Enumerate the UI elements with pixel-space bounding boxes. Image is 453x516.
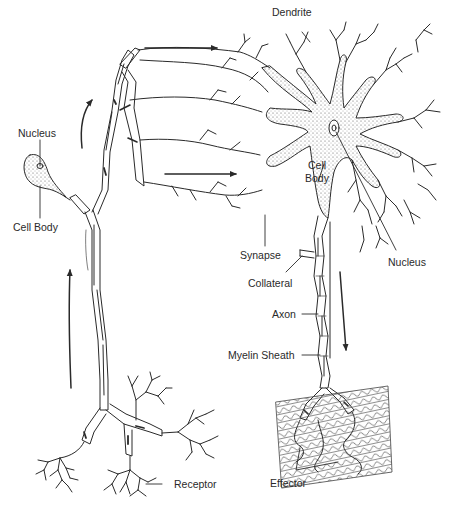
label-dendrite: Dendrite [272,7,312,18]
motor-cell-body [262,55,403,218]
label-cell-body-motor-line2: Body [302,173,332,184]
label-collateral: Collateral [248,278,292,289]
label-receptor: Receptor [174,479,217,490]
arrow-up-sensory-upper [81,100,92,148]
label-myelin-sheath: Myelin Sheath [228,350,295,361]
label-synapse: Synapse [240,250,281,261]
arrow-down-motor [340,272,346,350]
label-nucleus-motor: Nucleus [388,257,426,268]
sensory-cell-body [24,154,66,197]
label-cell-body-motor-line1: Cell [302,160,332,171]
arrow-up-sensory-lower [69,270,71,388]
label-cell-body-motor: Cell Body [302,160,332,183]
label-effector: Effector [270,478,306,489]
motor-axon [300,216,354,420]
neuron-diagram [0,0,453,516]
sensory-terminal-branches [130,34,270,208]
label-axon: Axon [272,309,296,320]
effector-muscle [276,386,392,488]
label-cell-body-sensory: Cell Body [13,222,58,233]
label-nucleus-sensory: Nucleus [18,128,56,139]
sensory-axon [70,48,144,410]
